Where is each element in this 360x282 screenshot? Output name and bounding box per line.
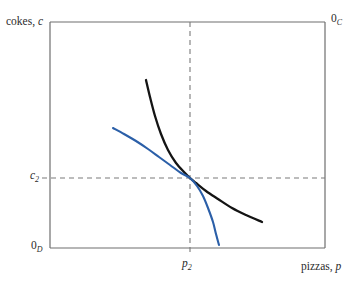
y-tick-label-c2: c2 xyxy=(30,170,39,184)
origin-d-label: 0D xyxy=(31,240,43,254)
origin-c-label: 0C xyxy=(331,13,342,27)
chart-canvas xyxy=(0,0,360,282)
x-tick-label-p2: p2 xyxy=(182,258,192,272)
x-axis-label: pizzas, p xyxy=(301,261,341,273)
edgeworth-box-chart: cokes, c pizzas, p 0D 0C c2 p2 xyxy=(0,0,360,282)
axis-box xyxy=(50,22,325,248)
y-axis-label: cokes, c xyxy=(6,16,43,28)
